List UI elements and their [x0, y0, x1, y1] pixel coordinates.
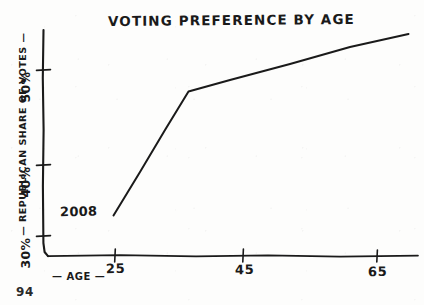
- y-tick-label-30: 30%: [20, 238, 33, 269]
- chart-title: VOTING PREFERENCE BY AGE: [108, 13, 355, 29]
- chart-canvas: [0, 0, 424, 305]
- x-tick-label-25: 25: [106, 262, 126, 276]
- y-axis-line: [43, 30, 48, 256]
- data-line-2008: [114, 34, 409, 216]
- x-tick-label-45: 45: [235, 263, 255, 276]
- x-tick-label-65: 65: [368, 265, 388, 278]
- y-tick-label-40: 40%: [20, 167, 33, 198]
- x-tick-mark-45: [243, 249, 244, 262]
- series-annotation-2008: 2008: [60, 205, 98, 219]
- page-number: 94: [16, 286, 34, 298]
- y-tick-mark-40: [37, 165, 51, 166]
- x-tick-mark-65: [377, 250, 378, 262]
- y-tick-mark-30: [37, 236, 51, 237]
- y-tick-label-50: 50%: [20, 72, 33, 103]
- y-tick-mark-50: [37, 70, 51, 71]
- chart-page: VOTING PREFERENCE BY AGE — REPUBLICAN SH…: [0, 0, 424, 305]
- x-axis-line: [48, 255, 418, 256]
- x-axis-label: — AGE —: [52, 272, 105, 282]
